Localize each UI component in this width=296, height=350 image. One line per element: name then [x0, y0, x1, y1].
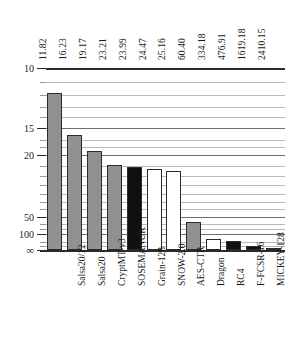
value-label: 11.82: [38, 46, 48, 60]
x-tick-label: RC4: [236, 270, 246, 286]
y-axis: 10152050100∞: [0, 68, 46, 258]
value-label: 1619.18: [237, 46, 247, 60]
gridline-minor: [46, 117, 285, 118]
x-tick-label: Salsa20/12: [77, 270, 87, 286]
x-tick-label: F-FCSR-16: [256, 270, 266, 286]
gridline-minor: [46, 95, 285, 96]
value-label: 16.23: [58, 46, 68, 60]
bar-cryptmt-v3: [87, 151, 102, 250]
y-tick-label: 10: [24, 63, 34, 74]
y-tick-mark: [37, 217, 46, 218]
y-tick-label: 100: [19, 229, 34, 240]
x-tick-label: Dragon: [216, 270, 226, 286]
x-tick-label: AES-CTR: [196, 270, 206, 286]
value-label: 2410.15: [257, 46, 267, 60]
bar-f-fcsr-16: [226, 241, 241, 250]
gridline-minor: [46, 107, 285, 108]
value-label: 23.21: [98, 46, 108, 60]
bar-rc4: [206, 239, 221, 250]
value-label: 60.40: [177, 46, 187, 60]
x-tick-label: Salsa20: [97, 270, 107, 286]
value-label: 24.47: [138, 46, 148, 60]
y-tick-mark: [37, 155, 46, 156]
gridline-major: [46, 68, 285, 70]
x-tick-label: SOSEMANUK: [137, 270, 147, 286]
x-axis-label-row: Salsa20/12Salsa20CryptMT-v3SOSEMANUKGrai…: [0, 252, 296, 350]
value-label: 476.91: [217, 46, 227, 60]
plot-area: [46, 68, 285, 250]
x-tick-label: Grain-128: [157, 270, 167, 286]
bar-aes-ctr: [166, 171, 181, 250]
bar-salsa20: [67, 135, 82, 250]
value-label: 19.17: [78, 46, 88, 60]
value-label: 334.18: [197, 46, 207, 60]
bar-salsa20-12: [47, 93, 62, 250]
y-tick-mark: [37, 234, 46, 235]
x-tick-label: SNOW-2.0: [177, 270, 187, 286]
y-tick-mark: [37, 68, 46, 69]
y-tick-label: 20: [24, 150, 34, 161]
y-tick-label: 50: [24, 212, 34, 223]
value-label: 25.16: [157, 46, 167, 60]
bar-chart: 11.8216.2319.1723.2123.9924.4725.1660.40…: [0, 0, 296, 350]
gridline-major: [46, 128, 285, 129]
x-tick-label: CryptMT-v3: [117, 270, 127, 286]
bar-snow-2-0: [147, 169, 162, 250]
value-label: 23.99: [118, 46, 128, 60]
gridline-minor: [46, 82, 285, 83]
value-label-row: 11.8216.2319.1723.2123.9924.4725.1660.40…: [0, 0, 296, 62]
y-tick-mark: [37, 128, 46, 129]
y-tick-label: 15: [24, 123, 34, 134]
x-tick-label: MICKEY-128: [276, 270, 286, 286]
